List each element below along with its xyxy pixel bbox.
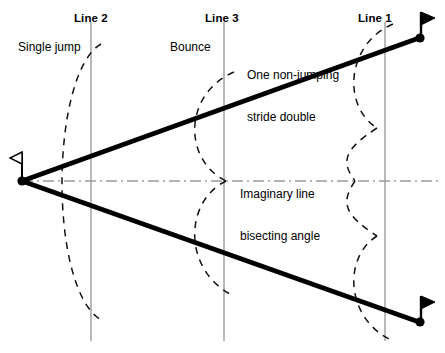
label-line-2: Line 2	[74, 12, 108, 25]
label-stride-double: One non-jumping stride double	[247, 41, 339, 152]
dashed-arc-stride-1	[354, 24, 393, 128]
upper-rail	[22, 38, 419, 181]
label-line-3: Line 3	[205, 12, 239, 25]
label-bounce: Bounce	[170, 41, 211, 55]
thick-rails	[22, 38, 419, 322]
lower-solid-flag-icon	[421, 296, 435, 309]
dashed-arc-single-jump	[62, 44, 101, 320]
upper-solid-flag-icon	[421, 12, 435, 25]
lower-rail-end-dot	[415, 317, 424, 326]
dashed-arc-stride-3	[347, 181, 377, 236]
diagram-canvas: Line 2 Line 3 Line 1 Single jump Bounce …	[0, 0, 445, 353]
dashed-arc-group-single-jump	[62, 44, 101, 320]
label-stride-double-line1: One non-jumping	[247, 69, 339, 83]
upper-rail-end-group	[415, 12, 435, 43]
dashed-arc-stride-4	[354, 236, 393, 341]
dashed-arc-group-stride-double	[347, 24, 393, 341]
dashed-arc-stride-2	[347, 128, 377, 181]
label-line-1: Line 1	[358, 12, 392, 25]
apex-dot	[17, 176, 26, 185]
label-stride-double-line2: stride double	[247, 111, 339, 125]
lower-rail-end-group	[415, 296, 435, 327]
label-imaginary-bisecting: Imaginary line bisecting angle	[240, 160, 320, 271]
apex-hollow-flag-icon	[10, 152, 22, 164]
label-imaginary-line2: bisecting angle	[240, 230, 320, 244]
apex-marker-group	[10, 152, 27, 186]
dashed-arc-bounce-lower	[195, 181, 234, 296]
label-imaginary-line1: Imaginary line	[240, 188, 320, 202]
lower-rail	[22, 181, 419, 322]
dashed-arc-bounce-upper	[195, 72, 234, 181]
upper-rail-end-dot	[415, 33, 424, 42]
label-single-jump: Single jump	[18, 41, 81, 55]
